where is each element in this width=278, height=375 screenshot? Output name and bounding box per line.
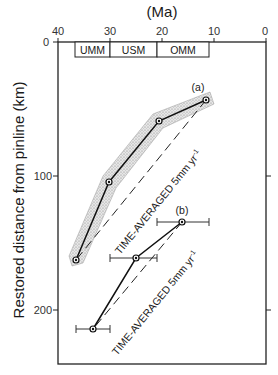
x-tick-10: 10 xyxy=(208,25,220,37)
y-tick-labels: 0 100 200 xyxy=(34,36,52,316)
y-axis-title: Restored distance from pinline (km) xyxy=(10,82,27,319)
y-tick-0: 0 xyxy=(43,36,49,48)
x-tick-20: 20 xyxy=(156,25,168,37)
stage-boxes: UMM USM OMM xyxy=(75,42,209,57)
series-b-rate-label: TIME-AVERAGED 5mm yr-1 xyxy=(109,248,200,357)
axis-ticks xyxy=(53,38,271,310)
series-a-label: (a) xyxy=(192,81,205,93)
stage-umm-label: UMM xyxy=(80,44,105,56)
x-tick-40: 40 xyxy=(52,25,64,37)
y-tick-200: 200 xyxy=(34,304,52,316)
stage-omm-label: OMM xyxy=(170,44,196,56)
x-tick-0: 0 xyxy=(262,25,268,37)
x-tick-labels: 40 30 20 10 0 xyxy=(52,25,268,37)
y-tick-100: 100 xyxy=(34,170,52,182)
x-tick-30: 30 xyxy=(104,25,116,37)
series-a-time-averaged-line xyxy=(76,100,206,260)
stage-usm-label: USM xyxy=(122,44,145,56)
series-b-label: (b) xyxy=(176,204,189,216)
chart: (Ma) 40 30 20 10 0 0 100 200 Restored di… xyxy=(0,0,278,375)
x-axis-title: (Ma) xyxy=(147,3,178,20)
